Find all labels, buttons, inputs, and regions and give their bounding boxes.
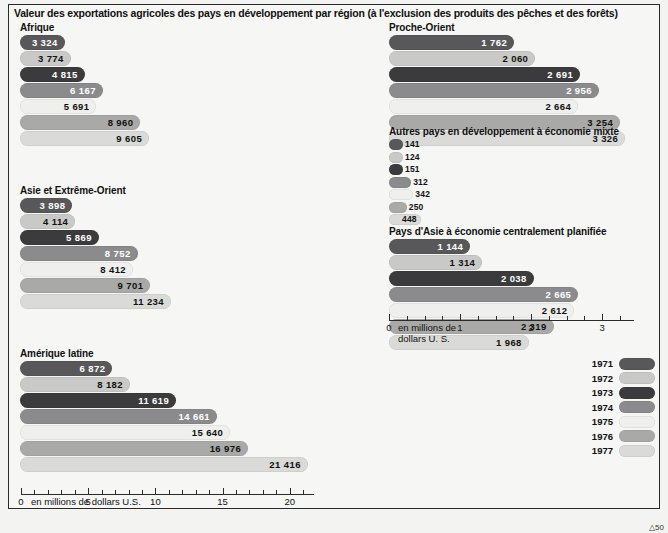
axis-right-unit-line1: en millions de — [398, 322, 456, 333]
bar-1973: 11 619 — [20, 393, 176, 408]
bar-1971: 3 324 — [20, 35, 65, 50]
axis-tick-minor — [549, 316, 550, 320]
axis-tick-minor — [276, 490, 277, 494]
bar-value-label: 2 038 — [501, 271, 527, 286]
bar-1972: 1 314 — [389, 255, 482, 270]
bar-row: 3 324 — [20, 35, 340, 50]
axis-tick-minor — [102, 490, 103, 494]
bar-1971: 141 — [389, 139, 403, 150]
bar-1975: 2 664 — [389, 99, 578, 114]
bar-value-label: 3 324 — [32, 35, 58, 50]
axis-tick-minor — [425, 316, 426, 320]
bar-value-label: 1 762 — [481, 35, 507, 50]
bar-1973: 2 038 — [389, 271, 534, 286]
bar-1971: 1 762 — [389, 35, 514, 50]
axis-right-unit-line2: dollars U. S. — [398, 333, 450, 344]
bar-row: 6 167 — [20, 83, 340, 98]
axis-tick-label: 20 — [285, 496, 296, 507]
bar-1975: 5 691 — [20, 99, 96, 114]
corner-mark: △50 — [649, 523, 664, 532]
bar-value-label: 4 815 — [52, 67, 78, 82]
bar-value-label: 15 640 — [192, 425, 223, 440]
bar-1977: 9 605 — [20, 131, 149, 146]
bar-value-label: 9 605 — [116, 131, 142, 146]
panel-title-autres-pays: Autres pays en développement à économie … — [389, 126, 649, 137]
axis-tick-minor — [249, 490, 250, 494]
bar-row: 15 640 — [20, 425, 650, 440]
bar-1976: 250 — [389, 202, 407, 213]
bar-value-label: 1 314 — [450, 255, 476, 270]
legend-year-label: 1977 — [585, 445, 613, 456]
axis-tick-major — [21, 488, 22, 494]
bar-row: 21 416 — [20, 457, 650, 472]
legend-color-swatch — [619, 430, 655, 442]
bar-value-label: 2 956 — [566, 83, 592, 98]
bar-1973: 4 815 — [20, 67, 85, 82]
axis-tick-label: 2 — [528, 322, 533, 333]
bar-1972: 3 774 — [20, 51, 71, 66]
bar-1974: 14 661 — [20, 409, 217, 424]
axis-tick-label: 5 — [86, 496, 91, 507]
legend-color-swatch — [619, 445, 655, 457]
bar-row: 151 — [389, 164, 649, 175]
legend-item-1973: 1973 — [585, 386, 655, 399]
axis-tick-minor — [48, 490, 49, 494]
bar-row: 2 612 — [389, 303, 649, 318]
bar-1977: 448 — [389, 214, 421, 225]
axis-tick-minor — [209, 490, 210, 494]
bar-1975: 15 640 — [20, 425, 230, 440]
axis-tick-minor — [584, 316, 585, 320]
bar-value-label: 250 — [409, 202, 424, 213]
page-title: Valeur des exportations agricoles des pa… — [14, 7, 644, 19]
panel-title-afrique: Afrique — [20, 22, 340, 33]
bar-row: 141 — [389, 139, 649, 150]
bar-1972: 124 — [389, 152, 403, 163]
bar-value-label: 2 665 — [545, 287, 571, 302]
bar-row: 250 — [389, 202, 649, 213]
axis-tick-minor — [142, 490, 143, 494]
legend-item-1974: 1974 — [585, 401, 655, 414]
bar-value-label: 3 774 — [38, 51, 64, 66]
bar-row: 8 960 — [20, 115, 340, 130]
axis-tick-minor — [236, 490, 237, 494]
axis-tick-label: 10 — [150, 496, 161, 507]
legend-year-label: 1975 — [585, 416, 613, 427]
legend-color-swatch — [619, 387, 655, 399]
bar-1973: 5 869 — [20, 230, 99, 245]
panel-amerique-latine: Amérique latine 6 8728 18211 61914 66115… — [20, 348, 650, 473]
bar-value-label: 2 319 — [521, 319, 547, 334]
axis-tick-minor — [442, 316, 443, 320]
bar-group-asie: 3 8984 1145 8698 7528 4129 70111 234 — [20, 198, 340, 309]
panel-autres-pays: Autres pays en développement à économie … — [389, 126, 649, 227]
bar-value-label: 6 872 — [80, 361, 106, 376]
panel-title-proche-orient: Proche-Orient — [389, 22, 649, 33]
bar-1971: 3 898 — [20, 198, 72, 213]
axis-tick-minor — [513, 316, 514, 320]
axis-tick-major — [531, 314, 532, 320]
bar-1974: 312 — [389, 177, 411, 188]
axis-tick-major — [290, 488, 291, 494]
bar-1974: 8 752 — [20, 246, 138, 261]
bar-1973: 2 691 — [389, 67, 580, 82]
axis-tick-minor — [496, 316, 497, 320]
bar-value-label: 2 691 — [547, 67, 573, 82]
axis-tick-minor — [303, 490, 304, 494]
bar-row: 2 664 — [389, 99, 649, 114]
axis-tick-major — [389, 314, 390, 320]
axis-tick-minor — [34, 490, 35, 494]
bar-value-label: 8 960 — [108, 115, 134, 130]
legend: 1971197219731974197519761977 — [585, 357, 655, 459]
bar-row: 16 976 — [20, 441, 650, 456]
axis-tick-minor — [169, 490, 170, 494]
bar-row: 342 — [389, 189, 649, 200]
bar-value-label: 3 898 — [40, 198, 66, 213]
bar-value-label: 5 691 — [64, 99, 90, 114]
bar-value-label: 11 234 — [133, 294, 164, 309]
axis-tick-major — [88, 488, 89, 494]
bar-row: 312 — [389, 177, 649, 188]
bar-value-label: 124 — [405, 152, 420, 163]
legend-year-label: 1971 — [585, 358, 613, 369]
bar-value-label: 9 701 — [118, 278, 144, 293]
legend-color-swatch — [619, 372, 655, 384]
bar-1976: 8 960 — [20, 115, 140, 130]
